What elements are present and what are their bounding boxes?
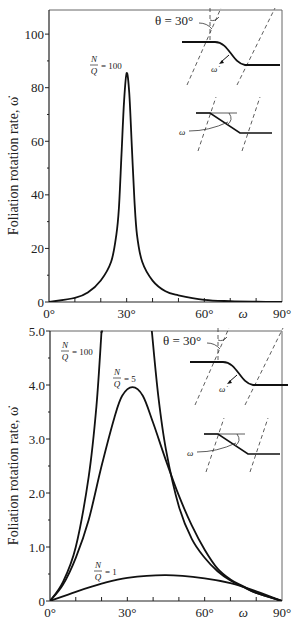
x-axis-label: ω bbox=[239, 306, 248, 321]
svg-text:N: N bbox=[94, 560, 102, 570]
omega-dot-label: ω̇ bbox=[219, 384, 228, 394]
y-axis-label: Foliation rotation rate, ω̇ bbox=[6, 96, 21, 235]
x-tick-label: 90° bbox=[273, 605, 291, 620]
svg-text:Q: Q bbox=[62, 352, 69, 362]
y-tick-label: 4.0 bbox=[29, 378, 45, 393]
label-nq-100-bottom: NQ= 100 bbox=[61, 340, 93, 362]
figure: 0204060801000°30°60°90°ωFoliation rotati… bbox=[0, 0, 296, 626]
label-nq-5: NQ= 5 bbox=[113, 367, 136, 389]
series-line bbox=[152, 331, 282, 601]
y-tick-label: 2.0 bbox=[29, 486, 45, 501]
series-line bbox=[49, 73, 282, 302]
svg-text:N: N bbox=[113, 367, 121, 377]
y-axis-label: Foliation rotation rate, ω̇ bbox=[6, 406, 21, 545]
inset-angular-top: ω bbox=[179, 97, 272, 151]
series-line bbox=[50, 387, 282, 601]
y-tick-label: 60 bbox=[31, 134, 44, 149]
svg-text:= 100: = 100 bbox=[72, 347, 93, 357]
series-line bbox=[50, 575, 282, 601]
y-tick-label: 20 bbox=[31, 241, 44, 256]
inset-angular-bottom: ω bbox=[187, 418, 280, 472]
label-nq-1: NQ= 1 bbox=[94, 560, 117, 582]
y-tick-label: 1.0 bbox=[29, 540, 45, 555]
series-line bbox=[50, 331, 102, 601]
svg-text:= 5: = 5 bbox=[124, 374, 136, 384]
theta-label: θ = 30° bbox=[163, 333, 201, 348]
svg-text:N: N bbox=[61, 340, 69, 350]
y-tick-label: 3.0 bbox=[29, 432, 45, 447]
svg-text:Q: Q bbox=[95, 572, 102, 582]
svg-text:N: N bbox=[90, 54, 98, 64]
x-tick-label: 30° bbox=[118, 605, 136, 620]
y-tick-label: 100 bbox=[25, 27, 45, 42]
label-nq-100-top: NQ= 100 bbox=[90, 54, 122, 76]
x-tick-label: 60° bbox=[195, 306, 213, 321]
bottom-chart: 01.02.03.04.05.00°30°60°90°ωFoliation ro… bbox=[6, 324, 291, 621]
top-chart: 0204060801000°30°60°90°ωFoliation rotati… bbox=[6, 10, 291, 321]
x-tick-label: 0° bbox=[44, 605, 56, 620]
svg-text:Q: Q bbox=[114, 379, 121, 389]
inset-smooth-top: θ = 30°ω̇ bbox=[155, 8, 280, 85]
x-axis-label: ω bbox=[239, 605, 248, 620]
svg-text:= 100: = 100 bbox=[101, 61, 122, 71]
x-tick-label: 90° bbox=[273, 306, 291, 321]
inset-smooth-bottom: θ = 30°ω̇ bbox=[163, 328, 288, 405]
x-tick-label: 30° bbox=[118, 306, 136, 321]
x-tick-label: 60° bbox=[196, 605, 214, 620]
y-tick-label: 40 bbox=[31, 187, 44, 202]
svg-text:= 1: = 1 bbox=[105, 567, 117, 577]
omega-dot-label: ω̇ bbox=[211, 64, 220, 74]
x-tick-label: 0° bbox=[43, 306, 55, 321]
omega-label: ω bbox=[187, 448, 193, 458]
y-tick-label: 80 bbox=[31, 80, 44, 95]
omega-label: ω bbox=[179, 127, 185, 137]
svg-text:Q: Q bbox=[91, 66, 98, 76]
theta-label: θ = 30° bbox=[155, 13, 193, 28]
y-tick-label: 5.0 bbox=[29, 324, 45, 339]
